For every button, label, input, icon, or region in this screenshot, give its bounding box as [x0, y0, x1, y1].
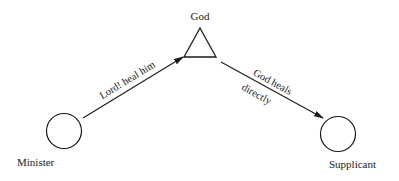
- edge-god-to-supplicant: God heals directly: [221, 62, 323, 118]
- god-label: God: [191, 10, 210, 22]
- supplicant-node: Supplicant: [321, 117, 377, 171]
- god-node: God: [184, 10, 216, 57]
- diagram-canvas: God Minister Supplicant Lord! heal him G…: [0, 0, 399, 181]
- diagram-svg: God Minister Supplicant Lord! heal him G…: [0, 0, 399, 181]
- supplicant-label: Supplicant: [329, 158, 376, 170]
- edge-minister-to-god: Lord! heal him: [83, 57, 183, 118]
- god-triangle-icon: [184, 28, 216, 57]
- supplicant-circle-icon: [321, 117, 356, 152]
- minister-label: Minister: [17, 156, 55, 168]
- minister-node: Minister: [17, 114, 82, 169]
- arrow-icon: [83, 57, 183, 118]
- arrow-icon: [221, 62, 323, 118]
- edge-label-lord-heal-him: Lord! heal him: [97, 59, 156, 101]
- minister-circle-icon: [47, 114, 82, 149]
